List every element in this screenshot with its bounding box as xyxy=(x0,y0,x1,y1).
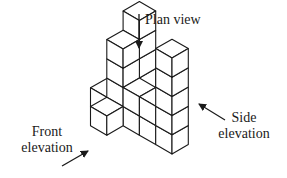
plan-view-label: Plan view xyxy=(145,12,201,28)
front-elevation-line2: elevation xyxy=(14,140,80,156)
front-elevation-label: Front elevation xyxy=(14,124,80,156)
side-elevation-line2: elevation xyxy=(213,126,275,142)
side-elevation-label: Side elevation xyxy=(213,110,275,142)
side-elevation-line1: Side xyxy=(213,110,275,126)
front-elevation-line1: Front xyxy=(14,124,80,140)
